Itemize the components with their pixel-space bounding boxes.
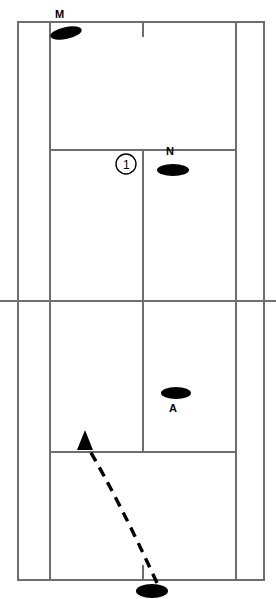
sequence-marker-1-label: 1 xyxy=(123,159,130,171)
player-label-m: M xyxy=(55,9,64,20)
court-lines xyxy=(0,22,276,580)
shot-trajectory-group xyxy=(77,430,157,583)
player-mark-n xyxy=(157,164,189,176)
player-label-n: N xyxy=(166,146,174,157)
player-mark-server xyxy=(136,584,168,598)
player-label-a: A xyxy=(169,403,177,414)
court-graphics xyxy=(0,0,276,599)
player-mark-a xyxy=(161,387,191,399)
player-marks xyxy=(49,24,191,598)
tennis-court-diagram: M N A 1 xyxy=(0,0,276,599)
shot-path-dashed xyxy=(86,444,157,583)
player-mark-m xyxy=(49,24,83,42)
shot-direction-arrow-icon xyxy=(77,430,93,450)
